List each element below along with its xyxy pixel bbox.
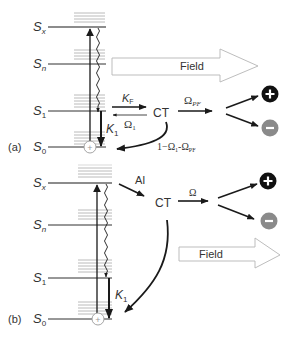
kf-label: KF xyxy=(122,92,134,105)
positive-charge-icon-a xyxy=(262,86,279,103)
field-arrow-a: Field xyxy=(112,49,258,82)
field-label-b: Field xyxy=(199,248,223,260)
level-label-sx-b: Sx xyxy=(33,175,47,192)
ground-state-hole-b: + xyxy=(92,313,104,325)
energy-levels-b xyxy=(48,183,112,319)
panel-b: Sx Sn S1 (b) S0 K1 + AI CT Ω xyxy=(8,168,280,328)
dissociation-arrow-plus-b xyxy=(218,184,257,198)
panel-label-a: (a) xyxy=(8,141,21,153)
level-label-s1-b: S1 xyxy=(33,270,47,287)
svg-text:+: + xyxy=(87,143,92,153)
dissociation-arrow-plus-a xyxy=(226,96,258,108)
field-arrow-b: Field xyxy=(179,238,280,268)
ground-state-hole-a: + xyxy=(84,141,96,153)
negative-charge-icon-b xyxy=(261,213,278,230)
omega-label-b: Ω xyxy=(189,187,196,198)
panel-label-b: (b) xyxy=(8,313,21,325)
panel-a: Sx Sn S1 (a) S0 K1 + Field KF Ω1 CT ΩP xyxy=(8,13,279,165)
level-label-s0-a: S0 xyxy=(33,139,47,156)
ct-label-b: CT xyxy=(155,196,172,210)
return-decay-label: 1−Ω1-ΩPF xyxy=(157,141,196,153)
omega1-label: Ω1 xyxy=(124,118,136,132)
level-label-sn-a: Sn xyxy=(33,56,47,73)
ct-label-a: CT xyxy=(153,106,170,120)
return-decay-curve-b xyxy=(125,220,168,312)
svg-text:+: + xyxy=(95,315,100,325)
k1-label-b: K1 xyxy=(115,288,128,304)
level-label-sx-a: Sx xyxy=(33,19,47,36)
ai-label: AI xyxy=(135,174,145,186)
level-label-s1-a: S1 xyxy=(33,103,47,120)
dissociation-arrow-minus-b xyxy=(218,205,254,219)
relaxation-wavy-arrow-a xyxy=(97,28,100,112)
vibrational-levels-b xyxy=(78,168,112,314)
positive-charge-icon-b xyxy=(260,173,277,190)
level-label-s0-b: S0 xyxy=(33,311,47,328)
k1-label-a: K1 xyxy=(106,122,119,138)
negative-charge-icon-a xyxy=(262,120,279,137)
dissociation-arrow-minus-a xyxy=(226,114,258,126)
level-label-sn-b: Sn xyxy=(33,217,47,234)
energy-level-diagram: Sx Sn S1 (a) S0 K1 + Field KF Ω1 CT ΩP xyxy=(0,0,296,341)
field-label-a: Field xyxy=(180,60,204,72)
omega-pf-label: ΩPF xyxy=(184,94,201,108)
